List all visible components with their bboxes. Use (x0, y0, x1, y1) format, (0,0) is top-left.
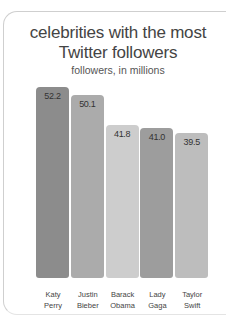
x-axis-label-line: Katy (36, 289, 70, 300)
x-axis-label-line: Taylor (175, 289, 209, 300)
x-axis-label-line: Justin (71, 289, 105, 300)
bar: 52.2 (36, 87, 69, 278)
x-axis-label-line: Swift (175, 300, 209, 311)
bar-value-label: 39.5 (175, 137, 208, 147)
bar: 41.0 (140, 128, 173, 278)
bar: 50.1 (71, 95, 104, 278)
x-axis-label: KatyPerry (36, 289, 70, 311)
bar: 39.5 (175, 133, 208, 278)
bar-value-label: 52.2 (36, 91, 69, 101)
x-axis-label-line: Barack (106, 289, 140, 300)
x-axis-label: JustinBieber (71, 289, 105, 311)
bar-value-label: 50.1 (71, 99, 104, 109)
x-axis-label: BarackObama (106, 289, 140, 311)
chart-subtitle: followers, in millions (10, 64, 226, 76)
bar-value-label: 41.8 (106, 129, 139, 139)
chart-title: celebrities with the most Twitter follow… (10, 23, 226, 63)
x-axis-label-line: Lady (140, 289, 174, 300)
x-axis-label-line: Obama (106, 300, 140, 311)
bar-value-label: 41.0 (140, 132, 173, 142)
x-axis-label-line: Perry (36, 300, 70, 311)
x-axis-label: TaylorSwift (175, 289, 209, 311)
x-axis-label: LadyGaga (140, 289, 174, 311)
bar: 41.8 (106, 125, 139, 278)
x-axis-label-line: Gaga (140, 300, 174, 311)
x-axis-label-line: Bieber (71, 300, 105, 311)
